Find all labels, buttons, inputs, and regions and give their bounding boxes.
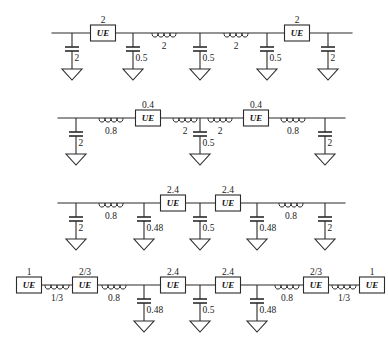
inductor-value: 1/3 [338, 293, 350, 303]
ue-value: 0.4 [142, 100, 154, 110]
inductor[interactable]: 0.8 [275, 285, 299, 303]
ue-element[interactable]: UE1 [17, 267, 42, 294]
inductor-coil [281, 118, 305, 122]
ground-symbol [190, 154, 210, 165]
ue-element[interactable]: UE2.4 [161, 267, 186, 294]
ue-element[interactable]: UE2.4 [216, 185, 241, 212]
inductor[interactable]: 2 [208, 118, 232, 136]
ground-symbol [190, 239, 210, 250]
capacitor-to-ground[interactable]: 0.5 [190, 285, 215, 332]
inductor[interactable]: 0.8 [281, 118, 305, 136]
inductor[interactable]: 1/3 [45, 285, 69, 303]
inductor-coil [224, 33, 248, 37]
ue-value: 2.4 [167, 267, 179, 277]
ue-element[interactable]: UE2 [91, 15, 116, 42]
inductor-coil [99, 203, 123, 207]
circuit-rows-group: 2220.50.50.52UE2UE20.8220.820.52UE0.4UE0… [17, 15, 385, 333]
capacitor-to-ground[interactable]: 0.5 [123, 33, 148, 80]
circuit-diagram-svg: 2220.50.50.52UE2UE20.8220.820.52UE0.4UE0… [0, 0, 388, 356]
inductor[interactable]: 2 [224, 33, 248, 51]
capacitor-value: 0.5 [136, 53, 148, 63]
ground-symbol [247, 239, 267, 250]
capacitor-value: 0.48 [260, 223, 277, 233]
ue-element[interactable]: UE1 [360, 267, 385, 294]
inductor[interactable]: 0.8 [102, 285, 126, 303]
ue-box-label: UE [142, 113, 155, 123]
inductor-value: 2 [234, 41, 239, 51]
ue-element[interactable]: UE2/3 [73, 267, 98, 294]
capacitor-to-ground[interactable]: 2 [318, 33, 338, 80]
ground-symbol [134, 321, 154, 332]
ue-element[interactable]: UE2/3 [304, 267, 329, 294]
capacitor-to-ground[interactable]: 2 [66, 203, 86, 250]
inductor-coil [332, 285, 356, 289]
ue-box-label: UE [167, 280, 180, 290]
ue-box-label: UE [23, 280, 36, 290]
inductor-value: 2 [218, 126, 223, 136]
inductor-value: 2 [162, 41, 167, 51]
ue-element[interactable]: UE0.4 [244, 100, 269, 127]
capacitor-value: 2 [79, 223, 84, 233]
capacitor-to-ground[interactable]: 0.48 [247, 203, 276, 250]
capacitor-value: 0.48 [147, 305, 164, 315]
ue-value: 2.4 [167, 185, 179, 195]
inductor-coil [152, 33, 176, 37]
figure-canvas: 2220.50.50.52UE2UE20.8220.820.52UE0.4UE0… [0, 0, 388, 356]
capacitor-to-ground[interactable]: 0.5 [190, 203, 215, 250]
ue-value: 2 [101, 15, 106, 25]
ue-box-label: UE [79, 280, 92, 290]
capacitor-to-ground[interactable]: 2 [66, 118, 86, 165]
ground-symbol [190, 69, 210, 80]
ue-box-label: UE [291, 28, 304, 38]
ue-element[interactable]: UE2 [285, 15, 310, 42]
capacitor-to-ground[interactable]: 0.5 [190, 33, 215, 80]
capacitor-value: 2 [328, 223, 333, 233]
inductor[interactable]: 0.8 [99, 203, 123, 221]
inductor[interactable]: 1/3 [332, 285, 356, 303]
capacitor-value: 2 [328, 138, 333, 148]
ue-box-label: UE [366, 280, 379, 290]
capacitor-to-ground[interactable]: 0.48 [134, 285, 163, 332]
inductor[interactable]: 0.8 [99, 118, 123, 136]
capacitor-to-ground[interactable]: 0.48 [247, 285, 276, 332]
capacitor-to-ground[interactable]: 2 [315, 118, 335, 165]
capacitor-to-ground[interactable]: 0.5 [190, 118, 215, 165]
ue-box-label: UE [222, 198, 235, 208]
inductor-value: 0.8 [105, 126, 117, 136]
ue-value: 2.4 [222, 185, 234, 195]
ue-element[interactable]: UE2.4 [216, 267, 241, 294]
inductor-value: 2 [183, 126, 188, 136]
ue-box-label: UE [167, 198, 180, 208]
inductor-value: 1/3 [51, 293, 63, 303]
capacitor-to-ground[interactable]: 0.48 [134, 203, 163, 250]
ue-element[interactable]: UE0.4 [136, 100, 161, 127]
ground-symbol [257, 69, 277, 80]
inductor-value: 0.8 [281, 293, 293, 303]
inductor-value: 0.8 [105, 211, 117, 221]
ue-value: 1 [27, 267, 32, 277]
inductor-value: 0.8 [285, 211, 297, 221]
ue-value: 2 [295, 15, 300, 25]
inductor-coil [45, 285, 69, 289]
ground-symbol [318, 69, 338, 80]
ue-element[interactable]: UE2.4 [161, 185, 186, 212]
ue-value: 1 [370, 267, 375, 277]
capacitor-to-ground[interactable]: 0.5 [257, 33, 282, 80]
ue-value: 2/3 [79, 267, 91, 277]
capacitor-to-ground[interactable]: 2 [62, 33, 82, 80]
row-4: 1/30.80.81/30.480.50.48UE1UE2/3UE2.4UE2.… [17, 267, 385, 333]
ground-symbol [315, 239, 335, 250]
inductor[interactable]: 2 [173, 118, 197, 136]
capacitor-value: 0.5 [203, 305, 215, 315]
ground-symbol [190, 321, 210, 332]
ue-value: 2.4 [222, 267, 234, 277]
capacitor-value: 2 [75, 53, 80, 63]
inductor[interactable]: 2 [152, 33, 176, 51]
capacitor-value: 0.5 [203, 53, 215, 63]
ue-box-label: UE [222, 280, 235, 290]
capacitor-to-ground[interactable]: 2 [315, 203, 335, 250]
capacitor-value: 0.48 [260, 305, 277, 315]
inductor[interactable]: 0.8 [279, 203, 303, 221]
ue-box-label: UE [310, 280, 323, 290]
ground-symbol [66, 239, 86, 250]
